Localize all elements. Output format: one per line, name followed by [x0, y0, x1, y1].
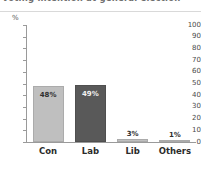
header-divider [0, 11, 201, 12]
y-axis-tick [23, 60, 26, 61]
y-axis-tick [23, 48, 26, 49]
bar-slot: 3% [117, 25, 148, 142]
x-axis-label-others: Others [154, 146, 196, 157]
bar-slot: 49% [75, 25, 106, 142]
bar-chart-figure: Voting intention at general election % 1… [0, 0, 201, 170]
x-axis-label-con: Con [27, 146, 69, 157]
y-axis-tick [23, 142, 26, 143]
y-axis-tick [23, 37, 26, 38]
x-axis-line [26, 142, 196, 143]
y-axis-tick [23, 25, 26, 26]
bar-slot: 48% [33, 25, 64, 142]
y-axis-unit-label: % [12, 14, 19, 22]
bar-others [159, 140, 190, 142]
bar-lib [117, 139, 148, 143]
x-axis-label-lab: Lab [69, 146, 111, 157]
bar-value-label: 1% [159, 131, 190, 139]
plot-area: % 1009080706050403020100 48%49%3%1% ConL… [0, 14, 201, 170]
x-axis-label-lib: Lib [112, 146, 154, 157]
bar-value-label: 48% [33, 91, 64, 99]
x-axis-category-labels: ConLabLibOthers [27, 146, 196, 162]
bars-layer: 48%49%3%1% [27, 25, 196, 142]
y-axis-tick [23, 95, 26, 96]
clipped-title-strip: Voting intention at general election [0, 0, 201, 9]
bar-value-label: 3% [117, 130, 148, 138]
bar-slot: 1% [159, 25, 190, 142]
y-axis-tick [23, 107, 26, 108]
y-axis-tick [23, 130, 26, 131]
y-axis-tick [23, 72, 26, 73]
chart-title: Voting intention at general election [2, 0, 180, 3]
y-axis-tick [23, 119, 26, 120]
y-axis-tick [23, 84, 26, 85]
bar-value-label: 49% [75, 90, 106, 98]
